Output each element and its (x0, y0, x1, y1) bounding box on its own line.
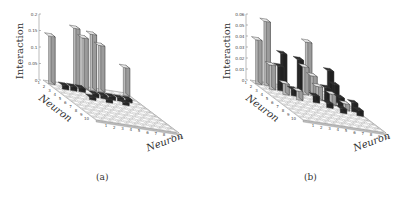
z-tick-label: 0.04 (235, 34, 245, 39)
z-tick-label: 0.1 (31, 45, 38, 50)
col-tick-label: 5 (345, 128, 348, 133)
bar-face (258, 38, 262, 85)
z-axis-label: Interaction (14, 22, 25, 79)
bar-1-10 (119, 64, 130, 96)
z-tick-label: 0.05 (28, 61, 38, 66)
z-axis: 00.050.10.150.2Interaction (14, 12, 41, 83)
bar-face (305, 65, 309, 96)
row-tick-label: 9 (287, 112, 290, 117)
col-tick-label: 5 (138, 128, 141, 133)
z-axis-label: Interaction (221, 22, 232, 79)
bar-top (69, 25, 80, 29)
row-tick-label: 10 (291, 116, 297, 121)
row-tick-label: 5 (266, 96, 269, 101)
z-tick-label: 0.2 (31, 12, 38, 17)
bar-top (276, 50, 287, 54)
row-tick-label: 4 (260, 92, 263, 97)
bar-top (252, 37, 263, 41)
row-tick-label: 3 (255, 88, 258, 93)
figure-canvas: 00.050.10.150.2Interaction12345678910Neu… (0, 0, 415, 204)
bar-top (86, 31, 97, 35)
z-tick-label: 0.02 (235, 56, 245, 61)
row-tick-label: 7 (69, 104, 72, 109)
bar-face (126, 65, 130, 96)
bar-top (260, 18, 271, 22)
bar-face (93, 32, 97, 91)
col-tick-label: 1 (105, 123, 108, 128)
panel-b-bar3d-chart: 00.010.020.030.040.050.06Interaction1234… (221, 12, 391, 154)
row-tick-label: 1 (38, 80, 41, 85)
col-tick-label: 3 (121, 126, 124, 131)
panel-a-caption: (a) (96, 172, 108, 182)
bar-face (272, 63, 276, 90)
z-tick-label: 0.01 (235, 67, 245, 72)
row-tick-label: 8 (282, 108, 285, 113)
bar-face (51, 34, 55, 85)
z-tick-label: 0.15 (28, 28, 38, 33)
col-tick-label: 4 (337, 127, 340, 132)
col-tick-label: 3 (328, 126, 331, 131)
bar-1-6 (293, 56, 304, 91)
bar-top (301, 39, 312, 43)
bar-top (323, 68, 334, 72)
row-tick-label: 8 (75, 108, 78, 113)
row-tick-label: 5 (59, 96, 62, 101)
row-tick-label: 2 (43, 84, 46, 89)
col-tick-label: 7 (361, 131, 364, 136)
bar-top (119, 64, 130, 68)
row-tick-label: 2 (250, 84, 253, 89)
col-tick-label: 7 (154, 131, 157, 136)
row-tick-label: 7 (276, 104, 279, 109)
bar-1-1 (252, 37, 263, 85)
col-tick-label: 2 (320, 125, 323, 130)
panel-a-bar3d-chart: 00.050.10.150.2Interaction12345678910Neu… (14, 12, 184, 154)
z-tick-label: 0.06 (235, 12, 245, 17)
bar-face (101, 43, 105, 92)
col-tick-label: 1 (312, 123, 315, 128)
z-axis: 00.010.020.030.040.050.06Interaction (221, 12, 248, 83)
bar-face (84, 36, 88, 90)
bar-top (347, 100, 358, 104)
row-tick-label: 6 (64, 100, 67, 105)
row-tick-label: 4 (53, 92, 56, 97)
panel-b-caption: (b) (304, 172, 317, 182)
col-tick-label: 6 (353, 130, 356, 135)
col-tick-label: 6 (146, 130, 149, 135)
row-tick-label: 1 (245, 80, 248, 85)
col-tick-label: 4 (130, 127, 133, 132)
z-tick-label: 0.05 (235, 23, 245, 28)
row-tick-label: 10 (84, 116, 90, 121)
bar-top (293, 56, 304, 60)
z-tick-label: 0.03 (235, 45, 245, 50)
col-tick-label: 2 (113, 125, 116, 130)
row-tick-label: 3 (48, 88, 51, 93)
bar-1-1 (45, 33, 56, 85)
row-tick-label: 6 (271, 100, 274, 105)
bar-top (45, 33, 56, 37)
row-tick-label: 9 (80, 112, 83, 117)
